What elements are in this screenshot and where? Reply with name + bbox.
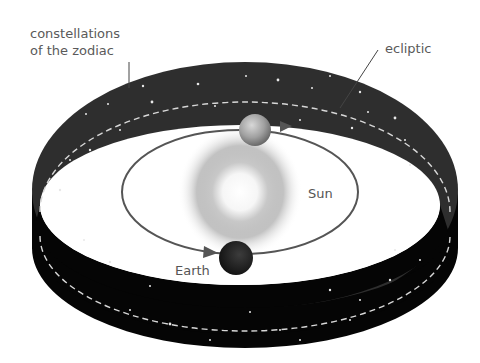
zodiac-label: constellations of the zodiac [30,25,120,59]
zodiac-label-line2: of the zodiac [30,42,120,59]
earth-near [219,241,253,275]
sun-label: Sun [308,185,333,202]
earth-far [239,114,271,146]
sun [178,126,302,258]
earth-label: Earth [175,262,210,279]
zodiac-label-line1: constellations [30,25,120,42]
ecliptic-label: ecliptic [385,40,431,57]
